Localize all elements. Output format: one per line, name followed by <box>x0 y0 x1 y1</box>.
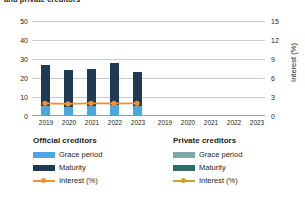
interest-marker <box>42 101 47 106</box>
x-axis-tick-left: 2023 <box>128 119 148 126</box>
interest-marker <box>65 101 70 106</box>
x-axis-tick-right: 2022 <box>224 119 244 126</box>
interest-line-swatch-icon <box>33 177 55 184</box>
y-axis-right-tick: 15 <box>271 18 293 25</box>
y-axis-left-tick: 50 <box>6 18 28 25</box>
chart-container: and private creditors 50 40 30 20 10 0 1… <box>0 0 305 199</box>
x-axis-tick-right: 2019 <box>155 119 175 126</box>
interest-marker <box>134 101 139 106</box>
legend-label: Maturity <box>59 163 86 172</box>
legend-item-private-maturity: Maturity <box>173 162 242 173</box>
legend-official-creditors: Official creditors Grace period Maturity… <box>33 136 102 188</box>
legend-label: Maturity <box>199 163 226 172</box>
y-axis-left-tick: 0 <box>6 113 28 120</box>
y-axis-left-tick: 10 <box>6 94 28 101</box>
x-axis-tick-left: 2019 <box>36 119 56 126</box>
interest-marker <box>88 101 93 106</box>
legend-heading-official: Official creditors <box>33 136 102 145</box>
legend-item-official-grace: Grace period <box>33 149 102 160</box>
legend-label: Interest (%) <box>59 176 98 185</box>
x-axis-tick-left: 2020 <box>59 119 79 126</box>
y-axis-right-tick: 0 <box>271 113 293 120</box>
y-axis-right-title: Interest (%) <box>289 43 298 82</box>
legend-private-creditors: Private creditors Grace period Maturity … <box>173 136 242 188</box>
x-axis-tick-left: 2021 <box>82 119 102 126</box>
x-axis-tick-right: 2020 <box>178 119 198 126</box>
x-axis-tick-right: 2023 <box>247 119 267 126</box>
x-axis-tick-right: 2021 <box>201 119 221 126</box>
interest-line-swatch-icon <box>173 177 195 184</box>
maturity-swatch-icon <box>33 165 55 171</box>
legend-item-official-interest: Interest (%) <box>33 175 102 186</box>
x-axis-tick-left: 2022 <box>105 119 125 126</box>
interest-line-layer <box>32 21 265 116</box>
maturity-swatch-icon <box>173 165 195 171</box>
legend-label: Interest (%) <box>199 176 238 185</box>
legend-item-official-maturity: Maturity <box>33 162 102 173</box>
legend-item-private-interest: Interest (%) <box>173 175 242 186</box>
y-axis-left-tick: 30 <box>6 56 28 63</box>
interest-marker <box>111 101 116 106</box>
grace-period-swatch-icon <box>173 152 195 158</box>
y-axis-left-tick: 20 <box>6 75 28 82</box>
legend-item-private-grace: Grace period <box>173 149 242 160</box>
grace-period-swatch-icon <box>33 152 55 158</box>
y-axis-right-tick: 3 <box>271 94 293 101</box>
plot-area <box>32 21 265 116</box>
chart-title: and private creditors <box>4 0 80 4</box>
y-axis-left-tick: 40 <box>6 37 28 44</box>
legend-label: Grace period <box>59 150 102 159</box>
legend-label: Grace period <box>199 150 242 159</box>
legend-heading-private: Private creditors <box>173 136 242 145</box>
